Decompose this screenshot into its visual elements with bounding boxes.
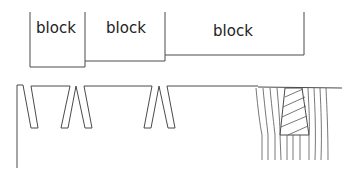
flow-lines-left	[256, 88, 300, 160]
block-group: block block block	[30, 12, 304, 67]
block-2: block	[85, 12, 165, 61]
flow-lines-right	[308, 88, 328, 160]
groove-3	[144, 86, 258, 128]
groove-2	[61, 86, 152, 128]
block-2-label: block	[106, 19, 146, 37]
block-3-label: block	[213, 22, 253, 40]
block-1: block	[30, 12, 85, 67]
weld-region	[256, 88, 328, 160]
hatch-lines	[281, 89, 308, 135]
block-3: block	[165, 12, 304, 55]
block-1-label: block	[36, 19, 76, 37]
diagram-canvas: block block block	[0, 0, 350, 180]
groove-1	[23, 85, 70, 128]
